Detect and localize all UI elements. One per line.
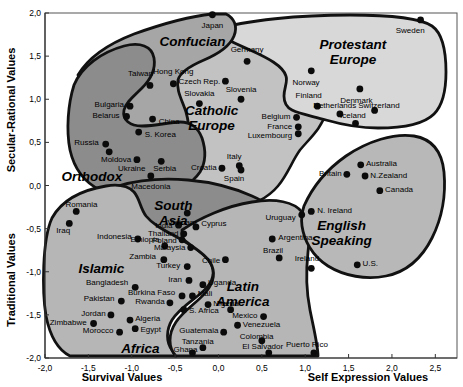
country-label-france: France [267,122,292,131]
data-point-sweden[interactable] [417,17,424,24]
data-point-argentina[interactable] [269,236,276,243]
country-label-colombia: Colombia [240,332,274,341]
data-point-iraq[interactable] [66,220,73,227]
country-label-n-ireland: N. Ireland [317,206,352,215]
data-point-serbia[interactable] [158,158,165,165]
data-point-tanzania[interactable] [199,344,206,351]
data-point-china[interactable] [149,116,156,123]
data-point-ireland[interactable] [308,265,315,272]
data-point-iran[interactable] [186,277,193,284]
data-point-n-ireland[interactable] [308,208,315,215]
data-point-burkina-faso[interactable] [179,293,186,300]
country-label-czech-rep-: Czech Rep. [178,77,220,86]
data-point-japan[interactable] [209,11,216,18]
data-point-venezuela[interactable] [234,322,241,329]
data-point-moldova[interactable] [106,148,113,155]
data-point-france[interactable] [295,123,302,130]
data-point-egypt[interactable] [132,325,139,332]
country-label-macedonia: Macedonia [131,182,171,191]
data-point-czech-rep-[interactable] [222,78,229,85]
y-tick-label: -1,0 [26,267,41,277]
data-point-turkey[interactable] [184,263,191,270]
data-point-canada[interactable] [376,187,383,194]
data-point-s-korea[interactable] [135,129,142,136]
data-point-uganda[interactable] [199,281,206,288]
country-label-china: China [159,117,180,126]
x-tick-label: -2,0 [38,363,53,373]
country-label-s-africa: S. Africa [189,306,219,315]
data-point-belgium[interactable] [293,114,300,121]
data-point-chile[interactable] [222,256,229,263]
x-tick-label: 0,0 [213,363,225,373]
y-tick-label: -1,5 [26,310,41,320]
country-label-mali: Mali [198,289,213,298]
data-point-iceland[interactable] [352,120,359,127]
country-label-belgium: Belgium [262,112,291,121]
data-point-slovenia[interactable] [238,96,245,103]
country-label-canada: Canada [385,185,414,194]
data-point-belarus[interactable] [123,113,130,120]
x-axis-title-left: Survival Values [82,371,163,383]
data-point-u-s-[interactable] [354,261,361,268]
data-point-el-salvador[interactable] [265,349,272,356]
country-label-croatia: Croatia [191,163,217,172]
data-point-luxembourg[interactable] [295,130,302,137]
data-point-ghana[interactable] [189,349,196,356]
data-point-puerto-rico[interactable] [310,349,317,356]
country-label-u-s-: U.S. [362,259,378,268]
country-label-morocco: Morocco [83,326,114,335]
country-label-luxembourg: Luxembourg [248,131,292,140]
data-point-jordan[interactable] [108,311,115,318]
data-point-brazil[interactable] [276,255,283,262]
data-point-mali[interactable] [189,293,196,300]
country-label-algeria: Algeria [135,314,160,323]
x-tick-label: 0,5 [256,363,268,373]
data-point-algeria[interactable] [127,317,134,324]
data-point-romania[interactable] [73,208,80,215]
country-label-egypt: Egypt [140,325,161,334]
data-point-russia[interactable] [102,141,109,148]
y-tick-label: 1,5 [29,51,41,61]
data-point-norway[interactable] [308,67,315,74]
data-point-ukraine[interactable] [134,156,141,163]
data-point-croatia[interactable] [219,165,226,172]
data-point-rwanda[interactable] [167,299,174,306]
data-point-germany[interactable] [244,58,251,65]
cluster-label-confucian: Confucian [159,34,225,49]
data-point-guatemala[interactable] [220,329,227,336]
data-point-switzerland[interactable] [371,107,378,114]
country-label-iraq: Iraq [56,226,70,235]
data-point-s-africa[interactable] [180,306,187,313]
country-label-malaysia: Malaysia [154,243,186,252]
data-point-macedonia[interactable] [147,173,154,180]
y-tick-label: 2,0 [29,8,41,18]
country-label-italy: Italy [227,152,242,161]
data-point-pakistan[interactable] [118,298,125,305]
data-point-n-zealand[interactable] [362,173,369,180]
country-label-spain: Spain [224,174,244,183]
data-point-taiwan[interactable] [147,82,154,89]
data-point-australia[interactable] [357,161,364,168]
country-label-norway: Norway [293,78,320,87]
country-label-switzerland: Switzerland [358,101,399,110]
country-label-ireland: Ireland [295,254,319,263]
data-point-bulgaria[interactable] [127,103,134,110]
country-label-s-korea: S. Korea [145,130,177,139]
data-point-hong-kong[interactable] [170,80,177,87]
inglehart-welzel-cultural-map: -2,0-1,5-1,0-0,50,00,51,01,52,02,5 -2,0-… [0,0,463,387]
data-point-spain[interactable] [238,167,245,174]
country-label-sweden: Sweden [396,26,425,35]
data-point-malaysia[interactable] [187,244,194,251]
data-point-morocco[interactable] [116,329,123,336]
country-label-guatemala: Guatemala [179,326,219,335]
x-axis-title-right: Self Expression Values [308,371,428,383]
data-point-britain[interactable] [343,171,350,178]
data-point-cyprus[interactable] [193,224,200,231]
country-label-n-zealand: N.Zealand [370,171,407,180]
data-point-thailand[interactable] [180,230,187,237]
data-point-uruguay[interactable] [298,211,305,218]
data-point-denmark[interactable] [356,86,363,93]
country-label-belarus: Belarus [92,111,119,120]
country-label-turkey: Turkey [156,261,180,270]
country-label-venezuela: Venezuela [243,320,281,329]
